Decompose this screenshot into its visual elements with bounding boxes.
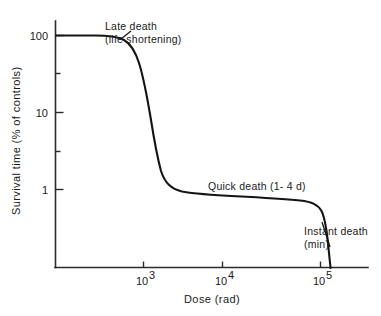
survival-time-dose-chart: 100 10 1 10 3 10 4 10 5 Survival time (%… [0,0,381,316]
y-axis-title: Survival time (% of controls) [10,66,22,215]
instant-death-label-line1: Instant death [304,225,368,237]
x-tick-base-1e4: 10 [215,275,227,287]
x-tick-label-1e3: 10 3 [136,269,155,287]
y-tick-marks [56,36,64,190]
annotation-instant-death: Instant death (min) [304,222,368,250]
x-tick-exponent-1e4: 4 [228,269,234,281]
x-tick-marks [144,262,321,268]
y-tick-label-10: 10 [36,107,48,119]
annotation-late-death: Late death (life shortening) [105,20,182,45]
x-tick-base-1e5: 10 [313,275,325,287]
x-tick-label-1e4: 10 4 [215,269,234,287]
instant-death-label-line2: (min) [304,238,329,250]
x-axis-title: Dose (rad) [184,293,240,305]
survival-curve [56,36,331,269]
annotation-quick-death: Quick death (1- 4 d) [208,180,306,192]
late-death-label-line1: Late death [105,20,157,32]
late-death-label-line2: (life shortening) [105,33,182,45]
y-tick-label-100: 100 [30,30,48,42]
quick-death-label: Quick death (1- 4 d) [208,180,306,192]
chart-canvas: 100 10 1 10 3 10 4 10 5 Survival time (%… [0,0,381,316]
x-tick-exponent-1e3: 3 [149,269,155,281]
x-tick-base-1e3: 10 [136,275,148,287]
y-tick-label-1: 1 [42,184,48,196]
x-tick-exponent-1e5: 5 [326,269,332,281]
x-tick-label-1e5: 10 5 [313,269,332,287]
